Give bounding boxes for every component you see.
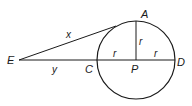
label-d: D — [177, 56, 185, 68]
label-x: x — [65, 29, 72, 40]
label-a: A — [140, 8, 148, 20]
geometry-diagram: E A C P D x y r r r — [0, 0, 192, 106]
label-y: y — [51, 64, 58, 75]
label-r-right: r — [154, 48, 158, 59]
label-p: P — [131, 63, 139, 75]
label-r-vertical: r — [139, 36, 143, 47]
label-c: C — [85, 63, 93, 75]
label-r-left: r — [113, 48, 117, 59]
label-e: E — [7, 54, 15, 66]
